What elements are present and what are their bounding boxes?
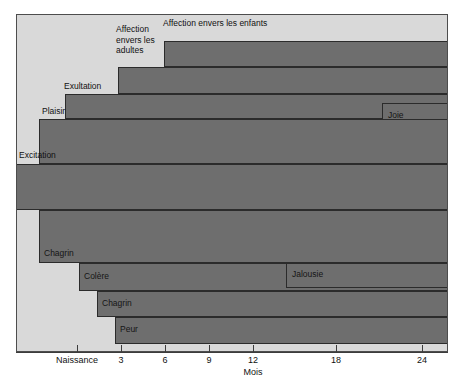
bar-label-chagrin-2: Chagrin <box>102 298 162 309</box>
tick-label-18: 18 <box>331 355 341 365</box>
tick-mark-3 <box>121 345 122 352</box>
bar-label-joie: Joie <box>388 110 448 121</box>
bar-label-chagrin-1: Chagrin <box>44 248 104 259</box>
tick-label-9: 9 <box>206 355 211 365</box>
tick-mark-18 <box>336 345 337 352</box>
tick-mark-6 <box>165 345 166 352</box>
plot-area: Affection envers les enfantsAffection en… <box>16 14 448 352</box>
bar-label-exultation: Exultation <box>64 81 134 92</box>
emotional-development-timeline-chart: Affection envers les enfantsAffection en… <box>0 0 464 381</box>
bar-label-colere: Colère <box>84 271 144 282</box>
bar-label-plaisir: Plaisir <box>42 106 102 117</box>
tick-mark-12 <box>253 345 254 352</box>
bar-label-affection-adultes: Affection envers les adultes <box>116 24 176 56</box>
tick-label-12: 12 <box>248 355 258 365</box>
tick-mark-naissance <box>77 345 78 352</box>
x-axis-line <box>16 352 448 353</box>
tick-mark-9 <box>209 345 210 352</box>
tick-label-24: 24 <box>417 355 427 365</box>
bar-plaisir <box>39 119 448 164</box>
tick-label-6: 6 <box>162 355 167 365</box>
bar-label-affection-enfants: Affection envers les enfants <box>163 18 363 29</box>
x-axis-title: Mois <box>243 367 262 377</box>
bar-label-peur: Peur <box>120 324 180 335</box>
bar-affection-enfants <box>164 41 448 67</box>
bar-affection-adultes <box>118 67 448 94</box>
tick-mark-24 <box>422 345 423 352</box>
bar-excitation <box>16 164 448 210</box>
bar-label-excitation: Excitation <box>19 150 89 161</box>
tick-label-naissance: Naissance <box>56 355 98 365</box>
tick-label-3: 3 <box>118 355 123 365</box>
bar-label-jalousie: Jalousie <box>292 269 352 280</box>
